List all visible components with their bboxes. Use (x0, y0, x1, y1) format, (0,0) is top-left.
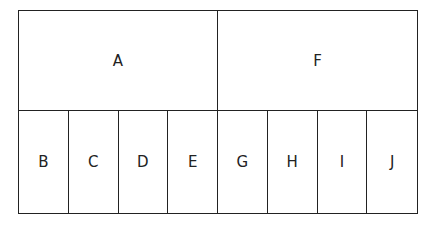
block-a: A (19, 11, 218, 111)
block-e: E (168, 111, 218, 213)
block-j: J (367, 111, 417, 213)
partition-diagram: A F B C D E G H I J (18, 10, 418, 214)
block-i: I (318, 111, 368, 213)
block-d: D (119, 111, 169, 213)
block-c: C (69, 111, 119, 213)
block-h: H (268, 111, 318, 213)
block-f: F (218, 11, 417, 111)
block-b: B (19, 111, 69, 213)
block-g: G (218, 111, 268, 213)
